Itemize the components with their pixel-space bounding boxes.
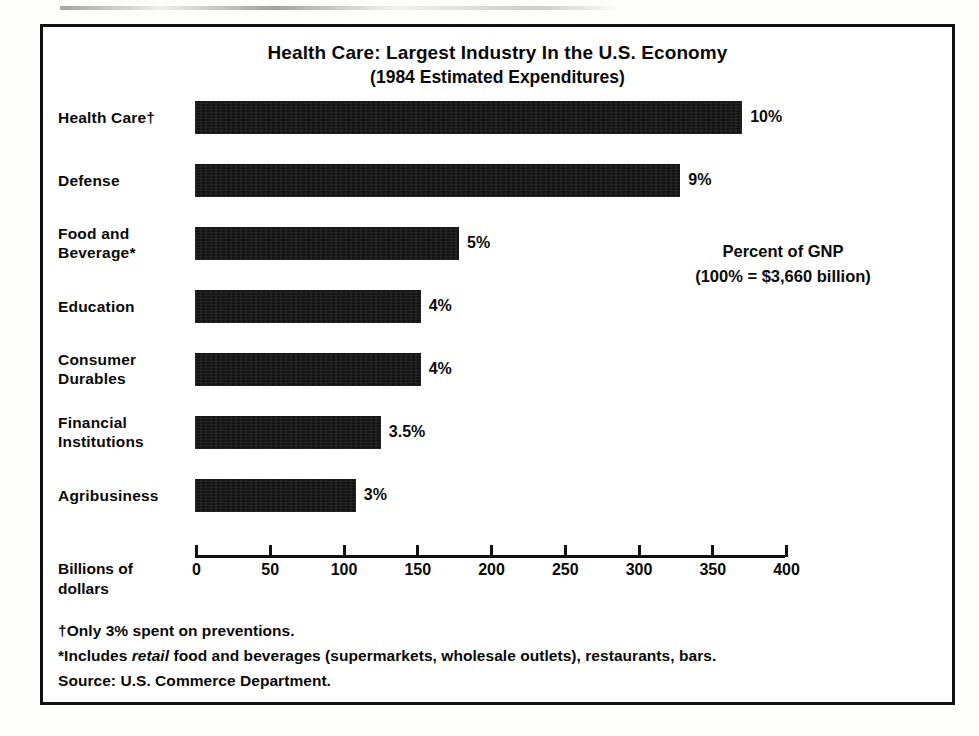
bar-value-label: 4% (429, 297, 452, 315)
x-axis-tick-label: 400 (773, 561, 800, 579)
x-axis-tick (269, 545, 272, 557)
x-axis-tick-label: 150 (404, 561, 431, 579)
bar (195, 416, 381, 449)
footnote-asterisk-suffix: food and beverages (supermarkets, wholes… (169, 647, 716, 664)
x-axis-tick-label: 100 (331, 561, 358, 579)
footnote-asterisk: *Includes retail food and beverages (sup… (58, 643, 948, 668)
bar-row: Health Care†10% (43, 99, 952, 135)
bar-row-label: Food andBeverage* (58, 224, 191, 262)
footnotes: †Only 3% spent on preventions. *Includes… (58, 618, 948, 693)
bar (195, 227, 459, 260)
bar-row: Education4% (43, 288, 952, 324)
chart-frame: Health Care: Largest Industry In the U.S… (40, 24, 955, 705)
bar-value-label: 3% (364, 486, 387, 504)
bar-value-label: 3.5% (389, 423, 425, 441)
bar-row-label-line2: Durables (58, 369, 191, 388)
x-axis-tick (564, 545, 567, 557)
x-axis-title: Billions of dollars (58, 559, 188, 599)
x-axis-tick-label: 300 (626, 561, 653, 579)
x-axis-tick (416, 545, 419, 557)
x-axis-title-line1: Billions of (58, 559, 188, 579)
bar-row-label-line2: Institutions (58, 432, 191, 451)
bar-row: Defense9% (43, 162, 952, 198)
bar-row-label-line1: Food and (58, 224, 191, 243)
bar-value-label: 4% (429, 360, 452, 378)
bar (195, 353, 421, 386)
gnp-annotation-line2: (100% = $3,660 billion) (623, 264, 943, 289)
footnote-source: Source: U.S. Commerce Department. (58, 668, 948, 693)
bar-value-label: 9% (688, 171, 711, 189)
bar-row: ConsumerDurables4% (43, 351, 952, 387)
bar-row-label: Defense (58, 171, 191, 190)
bar-chart-plot: Health Care†10%Defense9%Food andBeverage… (43, 27, 952, 702)
bar-row-label-line1: Financial (58, 413, 191, 432)
x-axis: Billions of dollars 05010015020025030035… (43, 545, 952, 591)
x-axis-tick-label: 350 (699, 561, 726, 579)
x-axis-tick (785, 545, 788, 557)
scanned-page: Health Care: Largest Industry In the U.S… (0, 0, 979, 736)
x-axis-tick (490, 545, 493, 557)
bar (195, 164, 680, 197)
x-axis-tick (711, 545, 714, 557)
x-axis-tick-label: 0 (192, 561, 201, 579)
bar-row-label-line2: Beverage* (58, 243, 191, 262)
bar-row-label: ConsumerDurables (58, 350, 191, 388)
bar-row: FinancialInstitutions3.5% (43, 414, 952, 450)
bar-row: Agribusiness3% (43, 477, 952, 513)
gnp-annotation: Percent of GNP (100% = $3,660 billion) (623, 239, 943, 289)
x-axis-tick (638, 545, 641, 557)
x-axis-tick (195, 545, 198, 557)
bar-row-label: Health Care† (58, 108, 191, 127)
bar-row-label: FinancialInstitutions (58, 413, 191, 451)
scan-artifact (60, 6, 620, 10)
x-axis-tick-label: 200 (478, 561, 505, 579)
bar-row-label-line1: Education (58, 297, 191, 316)
footnote-dagger: †Only 3% spent on preventions. (58, 618, 948, 643)
x-axis-title-line2: dollars (58, 579, 188, 599)
bar-row-label-line1: Agribusiness (58, 486, 191, 505)
x-axis-tick (343, 545, 346, 557)
footnote-asterisk-prefix: *Includes (58, 647, 132, 664)
bar (195, 290, 421, 323)
bar (195, 479, 356, 512)
x-axis-tick-label: 50 (261, 561, 279, 579)
bar-value-label: 10% (750, 108, 782, 126)
bar-row-label: Education (58, 297, 191, 316)
bar-row-label-line1: Health Care† (58, 108, 191, 127)
bar (195, 101, 742, 134)
bar-row-label-line1: Defense (58, 171, 191, 190)
gnp-annotation-line1: Percent of GNP (623, 239, 943, 264)
x-axis-tick-label: 250 (552, 561, 579, 579)
footnote-asterisk-italic: retail (132, 647, 169, 664)
bar-row-label-line1: Consumer (58, 350, 191, 369)
bar-row-label: Agribusiness (58, 486, 191, 505)
bar-value-label: 5% (467, 234, 490, 252)
